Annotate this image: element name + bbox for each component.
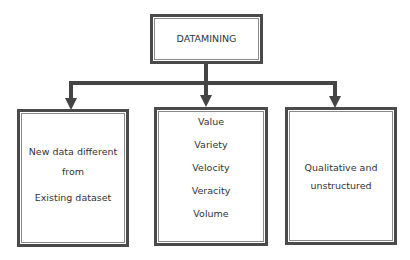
connector-horizontal-bar [69,81,337,85]
root-node-datamining: DATAMINING [150,14,263,64]
arrow-middle-icon [200,95,212,107]
connector-middle-down [204,81,208,96]
child-node-text-line: Qualitative and [288,162,394,174]
child-node-text-line: Velocity [157,162,265,174]
connector-left-down [69,81,73,99]
child-node-five-vs: Value Variety Velocity Veracity Volume [154,107,268,246]
child-node-new-data: New data different from Existing dataset [17,109,129,247]
child-node-text-line: New data different [20,146,126,158]
child-node-text-line: Veracity [157,185,265,197]
child-node-text-line: Existing dataset [20,192,126,204]
child-node-text-line: from [20,166,126,178]
child-node-qualitative: Qualitative and unstructured [285,107,397,245]
child-node-text-line: unstructured [288,180,394,192]
child-node-text-line: Volume [157,208,265,220]
connector-right-down [333,81,337,97]
child-node-text-line: Value [157,116,265,128]
child-node-text-line: Variety [157,139,265,151]
root-node-label: DATAMINING [153,33,260,45]
